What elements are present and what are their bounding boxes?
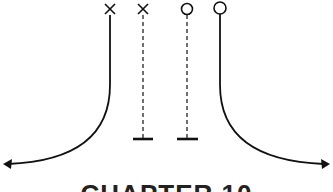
player-o2-icon: [214, 2, 226, 14]
route-o2-solid-curve: [220, 14, 324, 164]
play-diagram: [0, 0, 333, 192]
player-x2-icon: [138, 4, 148, 14]
route-x1-solid-curve: [8, 15, 110, 164]
chapter-caption: CHAPTER 10: [0, 181, 333, 192]
player-x1-icon: [105, 4, 115, 14]
arrowhead-right-icon: [321, 159, 330, 169]
player-o1-icon: [182, 4, 193, 15]
arrowhead-left-icon: [3, 159, 12, 169]
